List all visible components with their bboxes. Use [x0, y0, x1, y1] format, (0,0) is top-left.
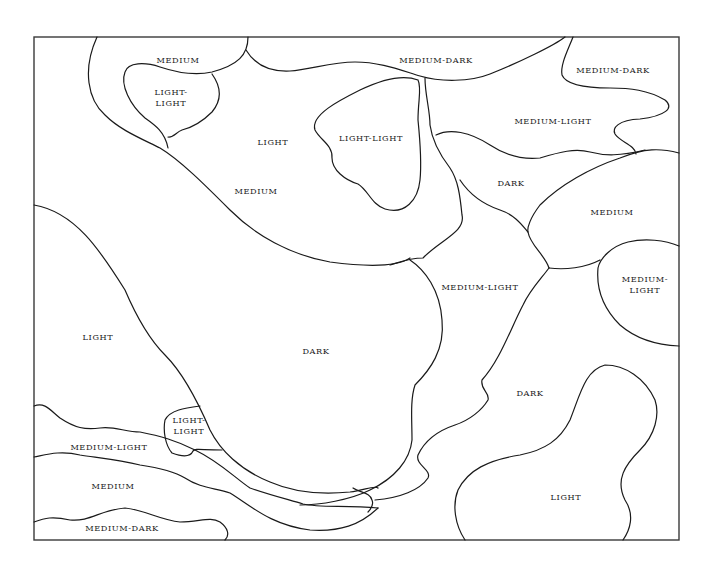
region-label-line: MEDIUM- — [622, 274, 668, 284]
region-label-light: LIGHT — [551, 492, 582, 502]
region-label-medium: MEDIUM — [156, 55, 199, 65]
region-label-line: LIGHT — [551, 492, 582, 502]
region-label-medium: MEDIUM — [91, 481, 134, 491]
boundary-medium-dark-right — [562, 37, 669, 154]
boundary-light-light-central — [314, 78, 420, 211]
diagram-frame — [34, 37, 679, 540]
region-label-light-light: LIGHT-LIGHT — [172, 415, 205, 436]
region-label-dark: DARK — [497, 178, 524, 188]
region-label-line: DARK — [516, 388, 543, 398]
boundary-vertical-divider — [390, 78, 462, 265]
region-label-light: LIGHT — [83, 332, 114, 342]
region-label-light: LIGHT — [258, 137, 289, 147]
region-label-medium-dark: MEDIUM-DARK — [399, 55, 473, 65]
region-labels: MEDIUMMEDIUM-DARKMEDIUM-DARKLIGHT-LIGHTL… — [70, 55, 668, 533]
boundary-medium-bottom-right — [549, 260, 600, 269]
boundary-dark-top — [436, 132, 645, 159]
region-label-line: MEDIUM — [156, 55, 199, 65]
region-label-dark: DARK — [516, 388, 543, 398]
region-label-line: LIGHT-LIGHT — [339, 133, 403, 143]
region-label-line: LIGHT- — [154, 87, 187, 97]
region-label-line: MEDIUM-LIGHT — [70, 442, 147, 452]
region-label-dark: DARK — [302, 346, 329, 356]
region-label-line: LIGHT — [174, 426, 205, 436]
region-label-medium: MEDIUM — [234, 186, 277, 196]
region-label-line: DARK — [302, 346, 329, 356]
region-label-line: MEDIUM — [590, 207, 633, 217]
region-label-medium-light: MEDIUM-LIGHT — [622, 274, 668, 295]
region-label-line: MEDIUM-DARK — [399, 55, 473, 65]
boundary-medium-top — [88, 37, 410, 265]
region-label-line: LIGHT — [630, 285, 661, 295]
region-label-line: LIGHT — [83, 332, 114, 342]
region-label-medium-light: MEDIUM-LIGHT — [441, 282, 518, 292]
region-label-light-light: LIGHT-LIGHT — [339, 133, 403, 143]
region-label-line: MEDIUM — [234, 186, 277, 196]
region-label-line: MEDIUM-LIGHT — [514, 116, 591, 126]
region-label-light-light: LIGHT-LIGHT — [154, 87, 187, 108]
region-label-line: MEDIUM-DARK — [576, 65, 650, 75]
region-label-line: MEDIUM-DARK — [85, 523, 159, 533]
region-label-medium-dark: MEDIUM-DARK — [85, 523, 159, 533]
region-label-line: LIGHT- — [172, 415, 205, 425]
region-label-medium-light: MEDIUM-LIGHT — [514, 116, 591, 126]
region-label-line: MEDIUM — [91, 481, 134, 491]
region-label-line: DARK — [497, 178, 524, 188]
region-label-line: MEDIUM-LIGHT — [441, 282, 518, 292]
region-label-medium-light: MEDIUM-LIGHT — [70, 442, 147, 452]
region-label-medium-dark: MEDIUM-DARK — [576, 65, 650, 75]
region-boundaries — [34, 37, 679, 540]
region-label-medium: MEDIUM — [590, 207, 633, 217]
boundary-medium-light-center-left — [300, 260, 442, 505]
region-label-line: LIGHT — [156, 98, 187, 108]
region-label-line: LIGHT — [258, 137, 289, 147]
tonal-map-diagram: MEDIUMMEDIUM-DARKMEDIUM-DARKLIGHT-LIGHTL… — [0, 0, 715, 573]
